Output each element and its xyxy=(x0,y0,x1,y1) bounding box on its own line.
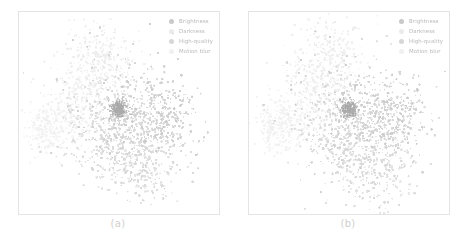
legend-item-high-quality: High-quality xyxy=(399,37,443,46)
plot-area-b: Brightness Darkness High-quality Motion … xyxy=(248,11,450,215)
panel-caption-a: (a) xyxy=(18,218,218,229)
legend-b: Brightness Darkness High-quality Motion … xyxy=(399,17,443,56)
legend-item-darkness: Darkness xyxy=(399,27,443,36)
legend-dot-darkness xyxy=(169,29,174,34)
legend-item-high-quality: High-quality xyxy=(169,37,213,46)
legend-dot-darkness xyxy=(399,29,404,34)
legend-label-high-quality: High-quality xyxy=(409,37,443,46)
legend-a: Brightness Darkness High-quality Motion … xyxy=(169,17,213,56)
legend-dot-motion-blur xyxy=(169,49,174,54)
legend-label-darkness: Darkness xyxy=(409,27,435,36)
legend-label-darkness: Darkness xyxy=(179,27,205,36)
legend-label-motion-blur: Motion blur xyxy=(179,47,211,56)
legend-item-motion-blur: Motion blur xyxy=(399,47,443,56)
legend-dot-high-quality xyxy=(169,39,174,44)
legend-label-brightness: Brightness xyxy=(179,17,209,26)
legend-dot-brightness xyxy=(399,19,404,24)
legend-dot-brightness xyxy=(169,19,174,24)
legend-dot-high-quality xyxy=(399,39,404,44)
panel-b: Brightness Darkness High-quality Motion … xyxy=(236,0,472,248)
two-panel-scatter-figure: Brightness Darkness High-quality Motion … xyxy=(0,0,472,248)
legend-label-brightness: Brightness xyxy=(409,17,439,26)
legend-label-motion-blur: Motion blur xyxy=(409,47,441,56)
legend-item-motion-blur: Motion blur xyxy=(169,47,213,56)
legend-label-high-quality: High-quality xyxy=(179,37,213,46)
panel-caption-b: (b) xyxy=(248,218,448,229)
legend-item-brightness: Brightness xyxy=(169,17,213,26)
panel-a: Brightness Darkness High-quality Motion … xyxy=(0,0,236,248)
legend-dot-motion-blur xyxy=(399,49,404,54)
legend-item-darkness: Darkness xyxy=(169,27,213,36)
plot-area-a: Brightness Darkness High-quality Motion … xyxy=(18,11,220,215)
legend-item-brightness: Brightness xyxy=(399,17,443,26)
